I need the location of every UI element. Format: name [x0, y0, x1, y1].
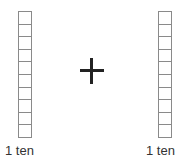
unit-cell — [18, 124, 32, 138]
unit-cell — [18, 49, 32, 62]
unit-cell — [158, 87, 172, 100]
left-ten-rod — [18, 11, 31, 138]
unit-cell — [18, 61, 32, 74]
unit-cell — [158, 99, 172, 112]
unit-cell — [158, 24, 172, 37]
left-ten-label: 1 ten — [5, 143, 34, 158]
unit-cell — [18, 24, 32, 37]
plus-vertical-bar — [90, 58, 93, 84]
unit-cell — [18, 99, 32, 112]
unit-cell — [18, 74, 32, 87]
unit-cell — [158, 61, 172, 74]
right-ten-rod — [158, 11, 171, 138]
unit-cell — [158, 124, 172, 138]
right-ten-label: 1 ten — [146, 143, 175, 158]
unit-cell — [158, 112, 172, 125]
unit-cell — [18, 87, 32, 100]
unit-cell — [158, 49, 172, 62]
unit-cell — [18, 112, 32, 125]
unit-cell — [158, 74, 172, 87]
unit-cell — [18, 11, 32, 24]
unit-cell — [158, 11, 172, 24]
unit-cell — [18, 36, 32, 49]
unit-cell — [158, 36, 172, 49]
